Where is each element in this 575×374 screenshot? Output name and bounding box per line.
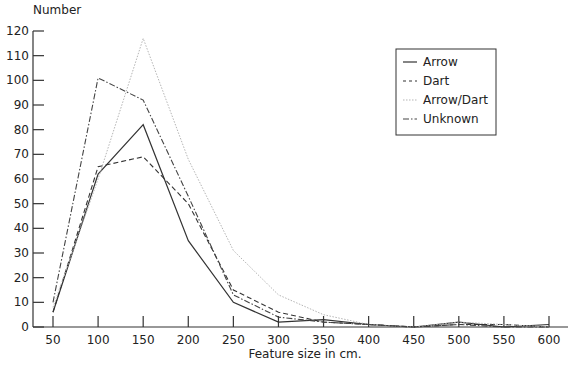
x-tick-label: 450 bbox=[402, 333, 425, 347]
x-tick-label: 600 bbox=[538, 333, 561, 347]
legend: ArrowDartArrow/DartUnknown bbox=[396, 49, 496, 135]
y-tick-label: 70 bbox=[14, 147, 29, 161]
y-tick-label: 30 bbox=[14, 246, 29, 260]
series-line-arrow bbox=[53, 125, 549, 327]
y-tick-label: 10 bbox=[14, 295, 29, 309]
y-tick-label: 100 bbox=[6, 73, 29, 87]
y-tick-label: 120 bbox=[6, 24, 29, 38]
legend-label: Arrow/Dart bbox=[423, 93, 488, 107]
y-tick-label: 90 bbox=[14, 98, 29, 112]
y-tick-label: 40 bbox=[14, 221, 29, 235]
x-tick-label: 100 bbox=[87, 333, 110, 347]
legend-label: Dart bbox=[423, 74, 450, 88]
legend-label: Arrow bbox=[423, 55, 458, 69]
legend-label: Unknown bbox=[423, 112, 479, 126]
y-axis-title: Number bbox=[33, 3, 81, 17]
line-chart: Number 0102030405060708090100110120 5010… bbox=[0, 0, 575, 374]
x-tick-label: 200 bbox=[177, 333, 200, 347]
y-tick-label: 80 bbox=[14, 123, 29, 137]
series-line-dart bbox=[53, 157, 549, 327]
x-tick-label: 350 bbox=[312, 333, 335, 347]
y-tick-label: 60 bbox=[14, 172, 29, 186]
x-tick-label: 400 bbox=[357, 333, 380, 347]
y-tick-label: 110 bbox=[6, 49, 29, 63]
y-axis: 0102030405060708090100110120 bbox=[6, 24, 44, 334]
x-tick-label: 500 bbox=[447, 333, 470, 347]
x-tick-label: 300 bbox=[267, 333, 290, 347]
x-tick-label: 250 bbox=[222, 333, 245, 347]
y-tick-label: 0 bbox=[21, 320, 29, 334]
x-tick-label: 150 bbox=[132, 333, 155, 347]
x-tick-label: 50 bbox=[45, 333, 60, 347]
x-tick-label: 550 bbox=[492, 333, 515, 347]
y-tick-label: 20 bbox=[14, 271, 29, 285]
y-tick-label: 50 bbox=[14, 197, 29, 211]
x-axis-title: Feature size in cm. bbox=[248, 347, 361, 361]
